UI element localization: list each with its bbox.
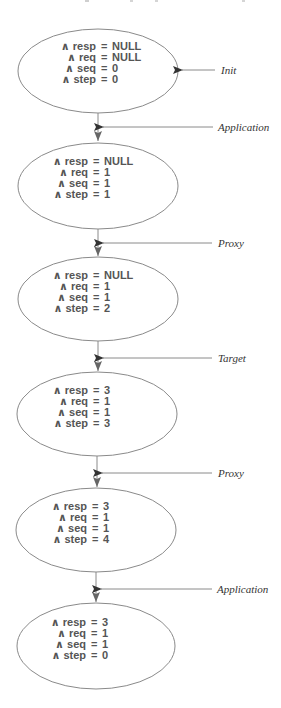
transition-label: Proxy: [217, 237, 244, 249]
transition-label: Proxy: [217, 467, 244, 479]
state-var-step: ∧ step=2: [53, 302, 110, 314]
init-arrow: Init: [182, 64, 237, 76]
state-node-1: ∧ resp=NULL ∧ req=NULL ∧ seq=0 ∧ step=0: [18, 29, 178, 113]
state-node-6: ∧ resp=3 ∧ req=1 ∧ seq=1 ∧ step=0: [17, 603, 175, 689]
state-node-3: ∧ resp=NULL ∧ req=1 ∧ seq=1 ∧ step=2: [18, 257, 178, 341]
state-var-step: ∧ step=0: [61, 73, 118, 85]
transition-label: Target: [218, 352, 247, 364]
state-var-step: ∧ step=0: [51, 649, 108, 661]
state-trace-diagram: ∧ resp=NULL ∧ req=NULL ∧ seq=0 ∧ step=0 …: [0, 0, 281, 708]
clipped-header-fragment: [85, 0, 245, 2]
state-var-step: ∧ step=4: [52, 533, 110, 545]
state-ellipse: [18, 29, 178, 113]
transition-5: Application: [96, 572, 269, 602]
transition-1: Application: [98, 113, 270, 141]
transition-label: Application: [216, 583, 269, 595]
transition-2: Proxy: [98, 229, 244, 256]
transition-3: Target: [98, 341, 247, 371]
transition-label: Application: [217, 121, 270, 133]
state-node-4: ∧ resp=3 ∧ req=1 ∧ seq=1 ∧ step=3: [17, 372, 177, 456]
transition-4: Proxy: [97, 456, 244, 487]
init-label: Init: [220, 64, 237, 76]
state-var-step: ∧ step=3: [53, 417, 110, 429]
state-var-step: ∧ step=1: [53, 188, 110, 200]
state-node-5: ∧ resp=3 ∧ req=1 ∧ seq=1 ∧ step=4: [16, 488, 176, 572]
state-node-2: ∧ resp=NULL ∧ req=1 ∧ seq=1 ∧ step=1: [18, 143, 178, 229]
